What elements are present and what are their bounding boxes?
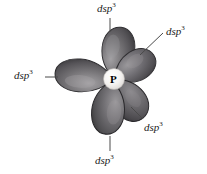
orbital-label-lower-right-base: dsp	[144, 121, 159, 133]
orbital-label-top: dsp3	[97, 3, 116, 14]
central-atom-symbol: P	[110, 74, 117, 85]
orbital-label-left-exponent: 3	[29, 68, 33, 76]
orbital-label-left: dsp3	[14, 70, 33, 81]
orbital-label-bottom-exponent: 3	[110, 153, 114, 161]
orbital-label-upper-right-base: dsp	[166, 25, 181, 37]
orbital-label-top-base: dsp	[97, 2, 112, 14]
orbital-label-lower-right: dsp3	[144, 122, 163, 133]
orbital-label-bottom-base: dsp	[95, 154, 110, 166]
orbital-label-lower-right-exponent: 3	[159, 120, 163, 128]
orbital-label-bottom: dsp3	[95, 155, 114, 166]
orbital-label-upper-right: dsp3	[166, 26, 185, 37]
orbital-label-left-base: dsp	[14, 69, 29, 81]
orbital-label-top-exponent: 3	[112, 1, 116, 9]
orbital-label-upper-right-exponent: 3	[181, 24, 185, 32]
